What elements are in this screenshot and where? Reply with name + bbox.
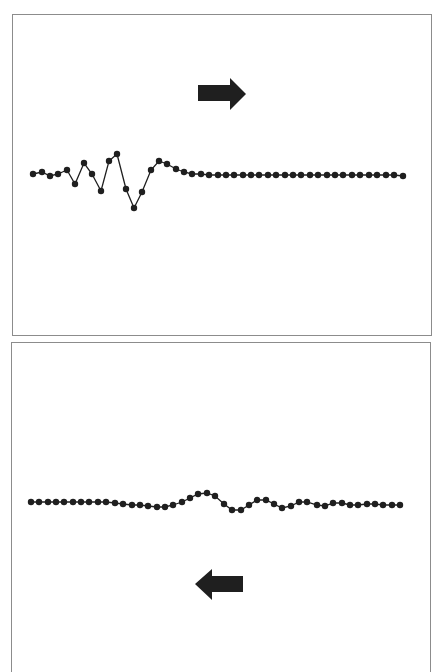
particle-dot <box>279 505 285 511</box>
particle-dot <box>154 504 160 510</box>
particle-dot <box>340 172 346 178</box>
particle-dot <box>45 499 51 505</box>
particle-dot <box>383 172 389 178</box>
particle-dot <box>364 501 370 507</box>
particle-dot <box>78 499 84 505</box>
particle-dot <box>53 499 59 505</box>
right-arrow-icon <box>198 78 246 110</box>
particle-dot <box>248 172 254 178</box>
particle-dot <box>298 172 304 178</box>
particle-dot <box>380 502 386 508</box>
wave-line <box>33 154 403 208</box>
particle-dot <box>181 169 187 175</box>
particle-dot <box>273 172 279 178</box>
particle-dot <box>374 172 380 178</box>
particle-dot <box>238 507 244 513</box>
left-arrow-icon <box>195 569 243 600</box>
particle-dot <box>187 495 193 501</box>
particle-dot <box>265 172 271 178</box>
particle-dot <box>304 499 310 505</box>
particle-dot <box>357 172 363 178</box>
particle-dot <box>129 502 135 508</box>
particle-dot <box>70 499 76 505</box>
particle-dot <box>39 169 45 175</box>
particle-dot <box>61 499 67 505</box>
particle-dot <box>332 172 338 178</box>
particle-dot <box>400 173 406 179</box>
particle-dot <box>339 500 345 506</box>
particle-dot <box>112 500 118 506</box>
particle-dot <box>221 501 227 507</box>
particle-dot <box>315 172 321 178</box>
particle-dot <box>55 171 61 177</box>
particle-dot <box>206 172 212 178</box>
particle-dot <box>139 189 145 195</box>
particle-dot <box>296 499 302 505</box>
particle-dot <box>231 172 237 178</box>
particle-dot <box>389 502 395 508</box>
particle-dot <box>173 166 179 172</box>
particle-dot <box>114 151 120 157</box>
particle-dot <box>64 167 70 173</box>
particle-dot <box>355 502 361 508</box>
particle-dot <box>271 501 277 507</box>
particle-dot <box>95 499 101 505</box>
particle-dot <box>36 499 42 505</box>
particle-dot <box>72 181 78 187</box>
particle-dot <box>164 161 170 167</box>
particle-dot <box>290 172 296 178</box>
particle-dot <box>254 497 260 503</box>
particle-dot <box>89 171 95 177</box>
particle-dot <box>223 172 229 178</box>
particle-dot <box>137 502 143 508</box>
wave-chain-top <box>30 151 406 211</box>
particle-dot <box>288 503 294 509</box>
particle-dot <box>30 171 36 177</box>
particle-dot <box>246 502 252 508</box>
particle-dot <box>204 490 210 496</box>
particle-dot <box>372 501 378 507</box>
wave-chain-bottom <box>28 490 403 513</box>
particle-dot <box>81 160 87 166</box>
particle-dot <box>123 186 129 192</box>
particle-dot <box>28 499 34 505</box>
particle-dot <box>240 172 246 178</box>
particle-dot <box>366 172 372 178</box>
particle-dot <box>131 205 137 211</box>
particle-dot <box>347 502 353 508</box>
particle-dot <box>195 491 201 497</box>
particle-dot <box>170 502 176 508</box>
particle-dot <box>391 172 397 178</box>
particle-dot <box>86 499 92 505</box>
particle-dot <box>120 501 126 507</box>
particle-dot <box>256 172 262 178</box>
particle-dot <box>307 172 313 178</box>
particle-dot <box>106 158 112 164</box>
particle-dot <box>47 173 53 179</box>
particle-dot <box>103 499 109 505</box>
particle-dot <box>189 171 195 177</box>
particle-dot <box>198 171 204 177</box>
particle-dot <box>162 504 168 510</box>
particle-dot <box>324 172 330 178</box>
particle-dot <box>215 172 221 178</box>
particle-dot <box>156 158 162 164</box>
particle-dot <box>322 503 328 509</box>
particle-dot <box>263 497 269 503</box>
particle-dot <box>314 502 320 508</box>
particle-dot <box>148 167 154 173</box>
particle-dot <box>98 188 104 194</box>
particle-dot <box>212 493 218 499</box>
particle-dot <box>179 499 185 505</box>
particle-dot <box>145 503 151 509</box>
particle-dot <box>397 502 403 508</box>
particle-dot <box>330 500 336 506</box>
particle-dot <box>229 507 235 513</box>
particle-dot <box>282 172 288 178</box>
particle-dot <box>349 172 355 178</box>
